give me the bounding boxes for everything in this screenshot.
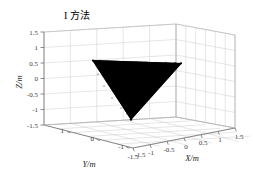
y-tick-label: 1 [61,127,65,135]
z-tick-label: -0.5 [27,91,39,99]
y-tick-label: -1 [118,143,124,151]
x-tick-label: 0 [184,143,188,151]
z-tick-label: 0 [35,75,39,83]
z-tick-label: 1.5 [29,29,38,37]
z-tick-label: 0.5 [29,60,38,68]
x-tick-label: -0.5 [163,146,175,154]
z-tick-label: 1 [35,44,39,52]
z-tick-label: -1 [32,106,38,114]
x-tick-label: 0.5 [199,139,208,147]
z-axis-title: Z/m [14,75,24,88]
x-tick-label: -1.5 [127,153,139,161]
y-tick-label: 0 [91,135,95,143]
figure-panel: 1.5 1 0.5 0 -0.5 -1 -1.5 1 0 -1 -1.5 [0,0,253,176]
x-tick-label: 1 [218,136,222,144]
x-tick-label: -1 [148,149,154,157]
x-axis-title: X/m [184,153,199,163]
page-title: I 方法 [64,9,90,21]
y-axis-title: Y/m [82,159,95,169]
x-tick-label: 1.5 [235,133,244,141]
plot-3d-canvas: 1.5 1 0.5 0 -0.5 -1 -1.5 1 0 -1 -1.5 [0,0,253,176]
z-tick-label: -1.5 [27,122,39,130]
